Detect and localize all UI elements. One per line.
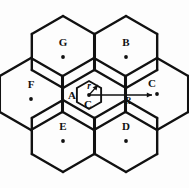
- cell-center-dot-b: [124, 55, 128, 59]
- cluster-outline-segment: [157, 112, 188, 130]
- cluster-outline-segment: [63, 16, 94, 34]
- cell-label-b: B: [122, 36, 130, 48]
- cell-label-g: G: [59, 36, 68, 48]
- cell-center-dot-g: [61, 55, 65, 59]
- cluster-outline-segment: [63, 154, 94, 172]
- cluster-outline-segment: [32, 16, 63, 34]
- cell-label-f: F: [28, 78, 35, 90]
- cell-label-e: E: [59, 120, 66, 132]
- cluster-outline-segment: [32, 154, 63, 172]
- cell-label-c: C: [148, 77, 156, 89]
- R-vector-arrowhead: [147, 92, 152, 97]
- cell-label-a: A: [68, 89, 76, 101]
- small-radius-label: r: [87, 81, 91, 91]
- cluster-outline-segment: [95, 16, 126, 34]
- cluster-outline-segment: [126, 16, 157, 34]
- big-radius-label: R: [124, 96, 131, 106]
- cell-center-dot-d: [124, 139, 128, 143]
- cell-center-dot-c: [155, 92, 159, 96]
- cell-label-d: D: [122, 120, 130, 132]
- cluster-outline-segment: [157, 58, 188, 76]
- inner-center-label: C: [84, 98, 92, 110]
- cell-center-dot-f: [29, 97, 33, 101]
- cell-center-dot-e: [61, 139, 65, 143]
- cluster-outline-segment: [95, 154, 126, 172]
- cell-cluster-svg: GBFCEDArCR: [0, 0, 189, 188]
- hexagon-cluster-figure: GBFCEDArCR: [0, 0, 189, 188]
- cluster-outline-segment: [0, 58, 31, 76]
- cluster-outline-segment: [126, 154, 157, 172]
- cluster-outline-segment: [0, 112, 31, 130]
